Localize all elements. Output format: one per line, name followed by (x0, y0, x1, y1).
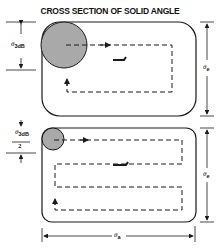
half-beamwidth-denominator: 2 (18, 142, 22, 150)
bottom-panel (6, 120, 214, 242)
half-beamwidth-label: θ3dB (11, 128, 33, 137)
aircraft-icon (113, 57, 126, 60)
azimuth-angle-label: θa (114, 231, 121, 240)
beamwidth-3db-label: θ3dB (11, 40, 25, 49)
elevation-angle-label-top: θe (203, 63, 210, 72)
solid-angle-boundary-bottom (42, 128, 196, 222)
solid-angle-diagram (0, 0, 220, 249)
top-panel (6, 22, 214, 116)
beam-circle-small (42, 128, 64, 150)
beam-circle-large (41, 22, 87, 68)
elevation-angle-label-bottom: θe (203, 170, 210, 179)
scan-path-bottom (54, 140, 182, 210)
